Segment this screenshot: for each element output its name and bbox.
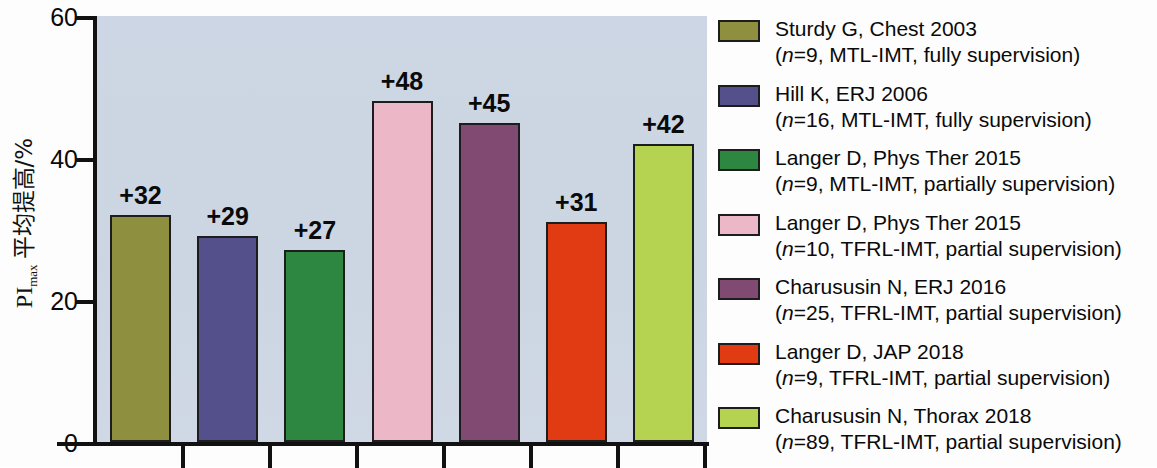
legend-item-5[interactable]: Charususin N, ERJ 2016(n=25, TFRL-IMT, p… xyxy=(718,274,1122,326)
bar-value-label-1: +32 xyxy=(92,181,189,210)
bar-value-label-3: +27 xyxy=(266,216,363,245)
x-axis-tick-7 xyxy=(703,446,707,468)
x-axis-tick-2 xyxy=(268,446,272,468)
legend-swatch-1 xyxy=(718,20,760,42)
bar-value-label-2: +29 xyxy=(179,202,276,231)
legend-label-detail-1: (n=9, MTL-IMT, fully supervision) xyxy=(775,42,1080,68)
bar-value-label-5: +45 xyxy=(441,89,538,118)
bar-6[interactable] xyxy=(546,222,607,442)
legend-item-7[interactable]: Charususin N, Thorax 2018(n=89, TFRL-IMT… xyxy=(718,403,1122,455)
y-tick-label-60: 60 xyxy=(32,3,78,32)
legend-label-3: Langer D, Phys Ther 2015(n=9, MTL-IMT, p… xyxy=(775,145,1115,197)
bar-value-label-7: +42 xyxy=(615,110,712,139)
legend-swatch-6 xyxy=(718,343,760,365)
legend-label-5: Charususin N, ERJ 2016(n=25, TFRL-IMT, p… xyxy=(775,274,1122,326)
y-axis-tick-labels: 60 40 20 0 xyxy=(30,0,78,466)
legend-item-3[interactable]: Langer D, Phys Ther 2015(n=9, MTL-IMT, p… xyxy=(718,145,1115,197)
bar-value-label-4: +48 xyxy=(354,67,451,96)
legend-swatch-2 xyxy=(718,85,760,107)
legend-label-1: Sturdy G, Chest 2003(n=9, MTL-IMT, fully… xyxy=(775,16,1080,68)
x-axis-tick-6 xyxy=(616,446,620,468)
bar-4[interactable] xyxy=(372,101,433,442)
legend-item-4[interactable]: Langer D, Phys Ther 2015(n=10, TFRL-IMT,… xyxy=(718,210,1122,262)
legend-label-detail-2: (n=16, MTL-IMT, fully supervision) xyxy=(775,107,1092,133)
legend-label-title-7: Charususin N, Thorax 2018 xyxy=(775,403,1122,429)
legend-item-1[interactable]: Sturdy G, Chest 2003(n=9, MTL-IMT, fully… xyxy=(718,16,1080,68)
legend-swatch-3 xyxy=(718,149,760,171)
legend-item-6[interactable]: Langer D, JAP 2018(n=9, TFRL-IMT, partia… xyxy=(718,339,1110,391)
bar-3[interactable] xyxy=(284,250,345,442)
legend-swatch-7 xyxy=(718,407,760,429)
x-axis-line xyxy=(57,442,709,446)
bar-7[interactable] xyxy=(633,144,694,442)
x-axis-tick-5 xyxy=(529,446,533,468)
legend-label-detail-5: (n=25, TFRL-IMT, partial supervision) xyxy=(775,300,1122,326)
legend-swatch-4 xyxy=(718,214,760,236)
legend-item-2[interactable]: Hill K, ERJ 2006(n=16, MTL-IMT, fully su… xyxy=(718,81,1092,133)
legend-label-6: Langer D, JAP 2018(n=9, TFRL-IMT, partia… xyxy=(775,339,1110,391)
y-tick-label-20: 20 xyxy=(32,287,78,316)
legend-label-title-4: Langer D, Phys Ther 2015 xyxy=(775,210,1122,236)
y-axis-tick-60 xyxy=(76,16,94,20)
legend-label-detail-3: (n=9, MTL-IMT, partially supervision) xyxy=(775,171,1115,197)
y-tick-label-40: 40 xyxy=(32,145,78,174)
y-axis-tick-20 xyxy=(76,300,94,304)
bar-2[interactable] xyxy=(197,236,258,442)
legend-label-title-3: Langer D, Phys Ther 2015 xyxy=(775,145,1115,171)
legend-label-4: Langer D, Phys Ther 2015(n=10, TFRL-IMT,… xyxy=(775,210,1122,262)
legend-label-title-5: Charususin N, ERJ 2016 xyxy=(775,274,1122,300)
legend-label-detail-4: (n=10, TFRL-IMT, partial supervision) xyxy=(775,236,1122,262)
legend-label-title-6: Langer D, JAP 2018 xyxy=(775,339,1110,365)
y-axis-tick-0 xyxy=(76,442,94,446)
legend-label-title-1: Sturdy G, Chest 2003 xyxy=(775,16,1080,42)
plot-area: +32+29+27+48+45+31+42 xyxy=(97,16,707,442)
x-axis-tick-1 xyxy=(181,446,185,468)
legend-label-title-2: Hill K, ERJ 2006 xyxy=(775,81,1092,107)
legend-label-detail-6: (n=9, TFRL-IMT, partial supervision) xyxy=(775,365,1110,391)
legend-swatch-5 xyxy=(718,278,760,300)
chart-legend: Sturdy G, Chest 2003(n=9, MTL-IMT, fully… xyxy=(718,8,1157,466)
legend-label-7: Charususin N, Thorax 2018(n=89, TFRL-IMT… xyxy=(775,403,1122,455)
bar-5[interactable] xyxy=(459,123,520,443)
legend-label-2: Hill K, ERJ 2006(n=16, MTL-IMT, fully su… xyxy=(775,81,1092,133)
legend-label-detail-7: (n=89, TFRL-IMT, partial supervision) xyxy=(775,429,1122,455)
y-axis-tick-40 xyxy=(76,158,94,162)
x-axis-tick-3 xyxy=(355,446,359,468)
bar-value-label-6: +31 xyxy=(528,188,625,217)
x-axis-tick-4 xyxy=(442,446,446,468)
bar-series: +32+29+27+48+45+31+42 xyxy=(97,16,707,442)
bar-1[interactable] xyxy=(110,215,171,442)
